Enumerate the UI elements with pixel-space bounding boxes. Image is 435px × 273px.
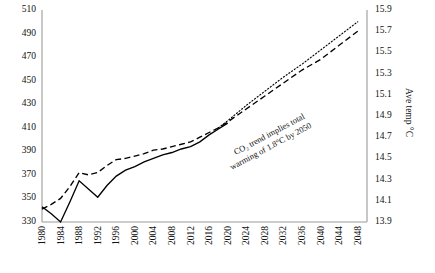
y-axis-right-tick-label: 14.5 — [375, 152, 405, 162]
x-axis-tick-label: 1996 — [111, 226, 121, 245]
x-axis-tick-label: 2012 — [186, 226, 196, 245]
y-axis-right-tick-label: 15.9 — [375, 4, 405, 14]
x-axis-tick-label: 2016 — [204, 226, 214, 245]
x-axis-tick-label: 2040 — [316, 226, 326, 245]
y-axis-left-tick-label: 410 — [6, 122, 36, 132]
x-axis-tick-label: 2004 — [148, 226, 158, 245]
x-axis-tick-label: 2008 — [167, 226, 177, 245]
y-axis-right-tick-label: 14.9 — [375, 110, 405, 120]
x-axis-tick-label: 2020 — [223, 226, 233, 245]
series-line-co2-projection — [218, 22, 357, 128]
x-axis-tick-label: 2028 — [260, 226, 270, 245]
y-axis-right-tick-label: 15.3 — [375, 68, 405, 78]
series-layer — [42, 22, 358, 222]
x-axis-tick-label: 2036 — [297, 226, 307, 245]
y-axis-right-tick-label: 15.7 — [375, 25, 405, 35]
x-axis-tick-label: 2000 — [130, 226, 140, 245]
x-axis-tick-label: 1984 — [56, 226, 66, 245]
y-axis-right-tick-label: 14.7 — [375, 131, 405, 141]
y-axis-left-tick-label: 350 — [6, 192, 36, 202]
y-axis-right-title: Ave temp °C — [404, 88, 414, 137]
y-axis-left-tick-label: 430 — [6, 98, 36, 108]
y-axis-right-tick-label: 13.9 — [375, 216, 405, 226]
y-axis-left-tick-label: 450 — [6, 75, 36, 85]
y-axis-left-tick-label: 470 — [6, 51, 36, 61]
y-axis-right-tick-label: 14.1 — [375, 195, 405, 205]
y-axis-right-tick-label: 14.3 — [375, 174, 405, 184]
x-axis-tick-label: 1992 — [93, 226, 103, 245]
chart-container: 330350370390410430450470490510 13.914.11… — [0, 0, 435, 273]
x-axis-tick-label: 2048 — [353, 226, 363, 245]
y-axis-right-tick-label: 15.5 — [375, 46, 405, 56]
y-axis-right-tick-label: 15.1 — [375, 89, 405, 99]
x-axis-tick-label: 1980 — [37, 226, 47, 245]
y-axis-left-tick-label: 490 — [6, 28, 36, 38]
y-axis-left-tick-label: 370 — [6, 169, 36, 179]
y-axis-left-tick-label: 330 — [6, 216, 36, 226]
x-axis-tick-label: 2032 — [278, 226, 288, 245]
x-axis-tick-label: 2044 — [334, 226, 344, 245]
x-axis-tick-label: 2024 — [241, 226, 251, 245]
y-axis-left-tick-label: 390 — [6, 145, 36, 155]
x-axis-tick-label: 1988 — [74, 226, 84, 245]
y-axis-left-tick-label: 510 — [6, 4, 36, 14]
